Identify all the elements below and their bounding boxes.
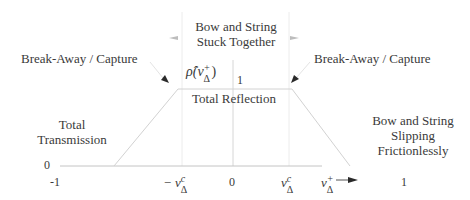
rho-symbol: ρ̂(v bbox=[186, 64, 204, 79]
x-tick-one: 1 bbox=[401, 175, 407, 190]
rho-label: ρ̂(v+Δ) bbox=[186, 64, 216, 80]
breakaway-right-label: Break-Away / Capture bbox=[314, 51, 431, 66]
stuck-together-label: Bow and String Stuck Together bbox=[184, 19, 288, 49]
breakaway-right-leader bbox=[297, 62, 310, 77]
total-reflection-label: Total Reflection bbox=[192, 91, 276, 106]
slipping-line2: Slipping bbox=[360, 128, 466, 143]
stuck-label-line2: Stuck Together bbox=[184, 34, 288, 49]
plateau-value-label: 1 bbox=[237, 73, 243, 88]
transmission-line1: Total bbox=[22, 117, 122, 132]
slipping-frictionlessly-label: Bow and String Slipping Frictionlessly bbox=[360, 113, 466, 158]
x-tick-vc: vcΔ bbox=[281, 175, 295, 191]
rho-arg-scripts: +Δ bbox=[204, 66, 212, 80]
total-transmission-label: Total Transmission bbox=[22, 117, 122, 147]
x-direction-arrow-icon bbox=[348, 177, 358, 183]
arrow-right-inward-icon bbox=[290, 36, 299, 40]
x-tick-minus-one: -1 bbox=[50, 175, 60, 190]
breakaway-left-leader bbox=[150, 62, 163, 78]
minus-vc-text: − v bbox=[163, 175, 181, 190]
breakaway-left-label: Break-Away / Capture bbox=[21, 51, 138, 66]
vc-scripts: cΔ bbox=[287, 177, 295, 191]
minus-vc-sub: Δ bbox=[181, 182, 187, 197]
slipping-line3: Frictionlessly bbox=[360, 143, 466, 158]
breakaway-left-arrow-icon bbox=[161, 75, 169, 83]
y-tick-zero: 0 bbox=[44, 158, 50, 173]
transmission-line2: Transmission bbox=[22, 132, 122, 147]
vplus-scripts: +Δ bbox=[327, 177, 335, 191]
x-tick-zero: 0 bbox=[229, 175, 235, 190]
slipping-line1: Bow and String bbox=[360, 113, 466, 128]
rho-close: ) bbox=[212, 64, 217, 79]
stuck-label-line1: Bow and String bbox=[184, 19, 288, 34]
x-tick-vplus: v+Δ bbox=[321, 175, 335, 191]
rho-sub: Δ bbox=[204, 71, 210, 86]
x-tick-minus-vc: − vcΔ bbox=[163, 175, 189, 191]
vplus-sub: Δ bbox=[327, 182, 333, 197]
arrow-left-inward-icon bbox=[169, 36, 178, 40]
minus-vc-scripts: cΔ bbox=[181, 177, 189, 191]
vc-sub: Δ bbox=[287, 182, 293, 197]
